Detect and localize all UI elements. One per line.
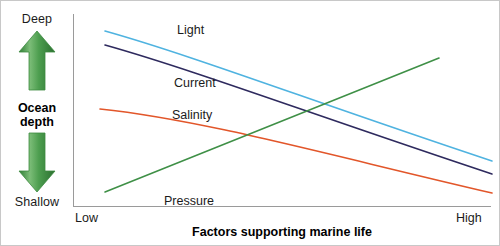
arrow-up-icon: [17, 30, 57, 92]
series-lines: [74, 14, 492, 207]
series-line-current: [105, 45, 492, 174]
series-line-pressure: [105, 58, 439, 192]
x-axis-label-low: Low: [75, 211, 98, 225]
series-label-light: Light: [177, 23, 204, 37]
x-axis-label-high: High: [456, 211, 482, 225]
chart-figure: Deep Ocean depth: [0, 0, 500, 246]
ocean-depth-title: Ocean depth: [1, 101, 73, 129]
ocean-depth-axis: Deep Ocean depth: [1, 1, 73, 246]
depth-label-shallow: Shallow: [1, 195, 73, 209]
ocean-depth-title-line2: depth: [1, 115, 73, 129]
series-line-salinity: [100, 109, 492, 193]
series-label-pressure: Pressure: [164, 194, 214, 208]
depth-label-deep: Deep: [1, 12, 73, 26]
arrow-down-icon: [17, 131, 57, 193]
ocean-depth-title-line1: Ocean: [1, 101, 73, 115]
x-axis-title: Factors supporting marine life: [73, 225, 491, 239]
series-label-current: Current: [174, 76, 216, 90]
series-label-salinity: Salinity: [172, 108, 212, 122]
series-line-light: [105, 31, 492, 161]
plot-area: Light Current Salinity Pressure: [73, 14, 491, 207]
